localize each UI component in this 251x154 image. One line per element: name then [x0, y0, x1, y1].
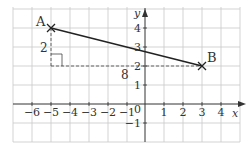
x-tick-label: −3 — [81, 106, 97, 119]
coordinate-diagram: −6 −5 −4 −3 −2 −1 1 2 3 4 4 3 2 1 −1 0 x… — [0, 0, 251, 154]
run-label: 8 — [121, 68, 129, 82]
x-tick-label: 4 — [218, 106, 225, 119]
rise-label: 2 — [40, 41, 48, 55]
point-a-label: A — [35, 14, 46, 29]
x-tick-label: −6 — [24, 106, 40, 119]
x-tick-label: −2 — [100, 106, 116, 119]
x-tick-label: 3 — [199, 106, 206, 119]
y-tick-label: 2 — [134, 60, 141, 73]
point-b-label: B — [207, 50, 217, 65]
y-tick-label: 3 — [134, 41, 141, 54]
x-tick-label: −4 — [62, 106, 78, 119]
y-tick-label: −1 — [125, 117, 141, 130]
x-tick-label: 1 — [161, 106, 168, 119]
right-angle-marker — [51, 54, 62, 66]
x-axis-arrow-icon — [238, 101, 246, 107]
x-tick-label: −5 — [43, 106, 59, 119]
y-axis-label: y — [133, 7, 141, 20]
x-axis-label: x — [232, 107, 239, 120]
origin-label: 0 — [134, 103, 141, 116]
y-tick-label: 1 — [134, 79, 141, 92]
x-tick-label: 2 — [180, 106, 187, 119]
y-axis-arrow-icon — [142, 9, 148, 17]
y-tick-label: 4 — [134, 22, 141, 35]
